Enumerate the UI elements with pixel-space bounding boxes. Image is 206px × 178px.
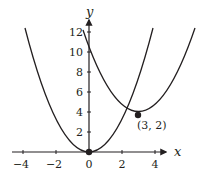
x-tick-label: −4 <box>13 158 29 171</box>
parabola-graph: −4 −2 0 2 4 2 4 6 8 10 12 x y (3, 2) <box>0 0 206 178</box>
vertex-point-label: (3, 2) <box>137 119 167 132</box>
parabola-2-curve <box>83 28 195 112</box>
y-tick-label: 10 <box>69 46 83 59</box>
x-tick-label: −2 <box>46 158 62 171</box>
vertex-point <box>135 112 141 118</box>
y-tick-label: 4 <box>76 106 83 119</box>
x-tick-labels: −4 −2 0 2 4 <box>13 158 159 171</box>
x-tick-label: 0 <box>86 158 93 171</box>
y-tick-label: 8 <box>76 66 83 79</box>
y-tick-label: 12 <box>69 26 83 39</box>
x-tick-label: 4 <box>152 158 159 171</box>
x-tick-label: 2 <box>119 158 126 171</box>
y-tick-labels: 2 4 6 8 10 12 <box>69 26 83 139</box>
x-axis-label: x <box>174 144 182 159</box>
y-axis-label: y <box>85 4 94 19</box>
y-tick-label: 6 <box>76 86 83 99</box>
y-tick-label: 2 <box>76 126 83 139</box>
origin-point <box>86 149 92 155</box>
